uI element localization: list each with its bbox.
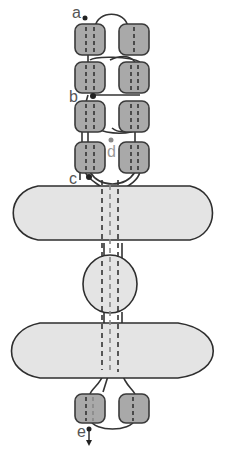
diagram-canvas: a b c d e (0, 0, 229, 463)
junction-c-dot (86, 174, 92, 180)
upper-ellipse (13, 186, 212, 240)
block-right (119, 62, 149, 93)
bottom-block-pair (75, 394, 149, 423)
label-a: a (72, 4, 81, 21)
lower-ellipse (12, 323, 214, 378)
junction-d-dot (109, 138, 114, 143)
block-left (75, 394, 105, 423)
label-b: b (69, 88, 78, 105)
label-e: e (77, 423, 86, 440)
block-left (75, 142, 105, 173)
block-right (119, 142, 149, 173)
block-right (119, 101, 149, 132)
block-left (75, 62, 105, 93)
block-right (119, 394, 149, 423)
label-c: c (69, 170, 77, 187)
junction-a-dot (83, 16, 88, 21)
block-left (75, 24, 105, 55)
e-arrow-head-icon (86, 440, 92, 446)
label-d: d (107, 143, 116, 160)
junction-b-dot (90, 93, 96, 99)
block-left (75, 101, 105, 132)
